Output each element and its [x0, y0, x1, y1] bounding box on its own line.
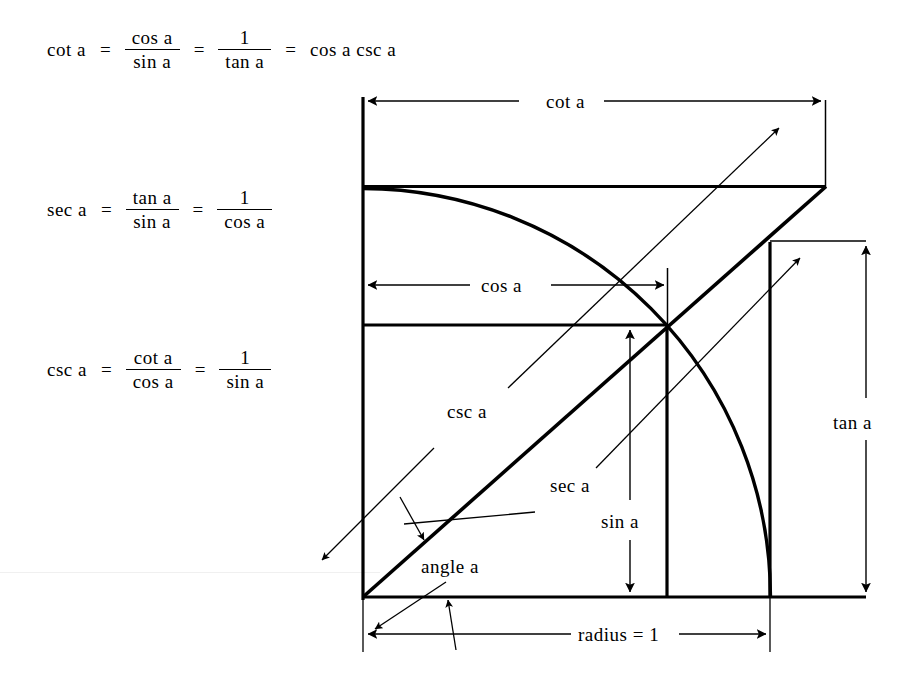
- cot-dimension-label: cot a: [546, 91, 585, 112]
- csc-leader-line-lower: [322, 448, 434, 560]
- sec-leader-arrow-to-ray: [400, 497, 424, 540]
- sec-label: sec a: [550, 475, 590, 496]
- csc-label: csc a: [447, 401, 487, 422]
- angle-label: angle a: [421, 556, 479, 577]
- radius-dimension-label: radius = 1: [578, 624, 659, 645]
- trig-unit-circle-diagram: cot a cos a radius = 1 sin a tan a csc a…: [0, 0, 919, 692]
- hypotenuse-ray: [363, 187, 826, 598]
- diagram-page: cot a = cos a sin a = 1 tan a = cos a cs…: [0, 0, 919, 692]
- sin-dimension-label: sin a: [601, 511, 639, 532]
- angle-leader-line-left: [375, 582, 446, 629]
- unit-circle-arc: [363, 189, 771, 598]
- cos-dimension-label: cos a: [481, 275, 522, 296]
- sec-leader-line-lower-stub: [404, 512, 535, 524]
- tan-dimension-label: tan a: [833, 412, 872, 433]
- angle-leader-line-up: [448, 600, 456, 650]
